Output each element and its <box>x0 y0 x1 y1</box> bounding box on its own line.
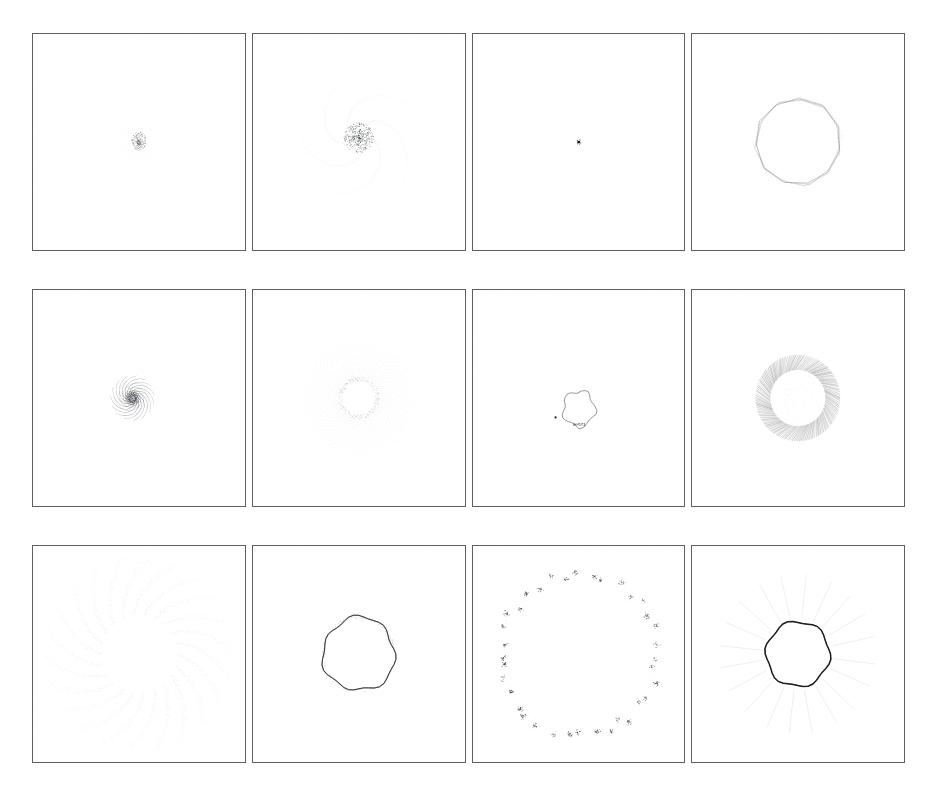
figure-panel-grid <box>32 33 905 763</box>
panel-plot-4 <box>692 34 904 250</box>
figure-panel-6 <box>252 289 466 507</box>
panel-plot-12 <box>692 546 904 762</box>
figure-panel-1 <box>32 33 246 251</box>
figure-panel-10 <box>252 545 466 763</box>
panel-plot-10 <box>253 546 465 762</box>
figure-panel-12 <box>691 545 905 763</box>
panel-plot-2 <box>253 34 465 250</box>
figure-panel-9 <box>32 545 246 763</box>
panel-plot-8 <box>692 290 904 506</box>
figure-panel-3 <box>472 33 686 251</box>
panel-plot-1 <box>33 34 245 250</box>
figure-panel-5 <box>32 289 246 507</box>
panel-plot-5 <box>33 290 245 506</box>
figure-panel-7 <box>472 289 686 507</box>
panel-plot-11 <box>473 546 685 762</box>
panel-plot-7 <box>473 290 685 506</box>
figure-panel-4 <box>691 33 905 251</box>
panel-plot-6 <box>253 290 465 506</box>
figure-panel-8 <box>691 289 905 507</box>
figure-panel-11 <box>472 545 686 763</box>
figure-panel-2 <box>252 33 466 251</box>
panel-plot-9 <box>33 546 245 762</box>
panel-plot-3 <box>473 34 685 250</box>
